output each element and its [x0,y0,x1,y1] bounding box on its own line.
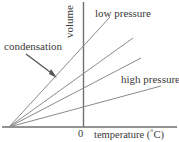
y-axis-label: volume [64,5,75,38]
plot-canvas [0,0,179,142]
condensation-arrow [26,54,57,78]
annotation-condensation: condensation [4,41,62,52]
x-axis-label-suffix: C) [153,129,164,140]
annotation-low-pressure: low pressure [95,8,151,19]
isobar-line-high-pressure [9,86,161,127]
x-axis-zero-tick-label: 0 [78,129,83,140]
isobar-line-3 [9,58,141,127]
x-axis-label-prefix: temperature ( [94,129,150,140]
annotation-high-pressure: high pressure [121,74,179,85]
gas-law-isobar-diagram: volume 0 temperature (°C) low pressure h… [0,0,179,142]
isobar-line-low-pressure [9,17,110,127]
x-axis-label: temperature (°C) [94,129,164,140]
